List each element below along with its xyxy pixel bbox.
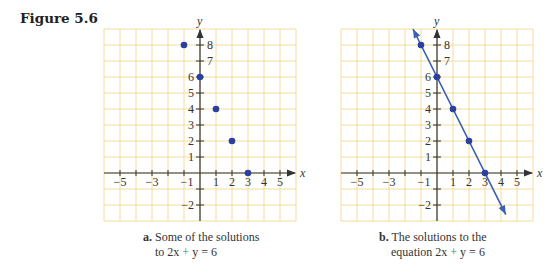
x-tick-label: −5 xyxy=(351,175,364,189)
caption-b: b. The solutions to the equation 2x + y … xyxy=(379,230,486,260)
caption-b-plus: + xyxy=(450,245,457,259)
x-axis-label: x xyxy=(536,166,543,180)
y-arrow-icon xyxy=(434,29,441,38)
x-tick-label: 2 xyxy=(466,175,472,189)
data-point xyxy=(450,106,457,113)
caption-a-line2-post: y = 6 xyxy=(192,245,217,259)
y-tick-label: 7 xyxy=(444,54,450,68)
caption-b-prefix: b. xyxy=(379,230,389,244)
x-tick-label: −1 xyxy=(418,175,431,189)
y-tick-label: −2 xyxy=(418,198,431,212)
x-tick-label: −3 xyxy=(383,175,396,189)
x-tick-label: 1 xyxy=(450,175,456,189)
caption-a-prefix: a. xyxy=(143,230,152,244)
y-tick-label: 1 xyxy=(425,150,431,164)
y-tick-label: 2 xyxy=(425,134,431,148)
y-tick-label: 6 xyxy=(425,70,431,84)
y-axis-label: y xyxy=(433,14,440,28)
y-tick-label: 3 xyxy=(425,118,431,132)
y-tick-label: 8 xyxy=(444,38,450,52)
caption-b-line2-pre: equation 2x xyxy=(391,245,447,259)
x-tick-label: 4 xyxy=(498,175,504,189)
data-point xyxy=(466,138,473,145)
x-tick-label: 5 xyxy=(514,175,520,189)
caption-b-line2-post: y = 6 xyxy=(460,245,485,259)
data-point xyxy=(482,170,489,177)
y-tick-label: 4 xyxy=(425,102,431,116)
caption-a-line1: Some of the solutions xyxy=(155,230,259,244)
y-tick-label: 5 xyxy=(425,86,431,100)
caption-a-line2-pre: to 2x xyxy=(155,245,179,259)
caption-a: a. Some of the solutions to 2x + y = 6 xyxy=(143,230,259,260)
data-point xyxy=(434,74,441,81)
data-point xyxy=(418,42,425,49)
line-arrow-icon xyxy=(413,29,420,39)
line-arrow-icon xyxy=(499,205,506,215)
caption-b-line1: The solutions to the xyxy=(391,230,486,244)
x-arrow-icon xyxy=(524,170,533,177)
caption-a-plus: + xyxy=(182,245,189,259)
